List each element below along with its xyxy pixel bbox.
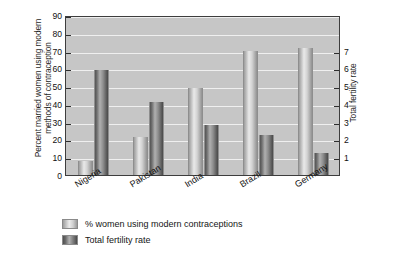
y-tick-mark-right bbox=[334, 124, 340, 125]
legend-label: Total fertility rate bbox=[85, 235, 151, 245]
y-tick-mark-left bbox=[66, 53, 71, 54]
y-tick-label-left: 90 bbox=[52, 12, 62, 20]
y-tick-label-left: 60 bbox=[52, 65, 62, 73]
y-tick-label-left: 80 bbox=[52, 30, 62, 38]
y-tick-label-left: 50 bbox=[52, 83, 62, 91]
legend-item: % women using modern contraceptions bbox=[62, 217, 243, 231]
chart-legend: % women using modern contraceptionsTotal… bbox=[62, 217, 243, 249]
y-tick-label-right: 6 bbox=[344, 65, 349, 73]
y-tick-mark-left bbox=[66, 141, 71, 142]
bar-brazil-contraception bbox=[243, 51, 258, 175]
bar-india-contraception bbox=[188, 88, 203, 175]
y-tick-label-left: 10 bbox=[52, 154, 62, 162]
y-tick-mark-left bbox=[66, 88, 71, 89]
y-tick-label-right: 7 bbox=[344, 48, 349, 56]
y-tick-label-right: 4 bbox=[344, 101, 349, 109]
y-tick-label-left: 70 bbox=[52, 48, 62, 56]
y-tick-label-left: 30 bbox=[52, 119, 62, 127]
y-tick-mark-right bbox=[334, 159, 340, 160]
y-tick-mark-right bbox=[334, 106, 340, 107]
y-axis-left-title: Percent married women using modern metho… bbox=[33, 3, 53, 173]
y-axis-right-title: Total fertility rate bbox=[348, 28, 358, 158]
bar-nigeria-fertility bbox=[94, 70, 109, 175]
y-tick-mark-left bbox=[66, 17, 71, 18]
bar-brazil-fertility bbox=[259, 135, 274, 175]
y-tick-label-left: 20 bbox=[52, 136, 62, 144]
y-tick-label-right: 1 bbox=[344, 154, 349, 162]
y-tick-mark-right bbox=[334, 141, 340, 142]
gridline bbox=[66, 17, 339, 18]
legend-swatch-light bbox=[62, 219, 78, 229]
legend-label: % women using modern contraceptions bbox=[85, 219, 243, 229]
legend-swatch-dark bbox=[62, 235, 78, 245]
y-tick-label-right: 2 bbox=[344, 136, 349, 144]
gridline bbox=[66, 35, 339, 36]
y-tick-mark-left bbox=[66, 35, 71, 36]
bar-chart: Percent married women using modern metho… bbox=[0, 0, 393, 258]
legend-item: Total fertility rate bbox=[62, 233, 243, 247]
bar-germany-contraception bbox=[298, 48, 313, 175]
bar-india-fertility bbox=[204, 125, 219, 175]
plot-area bbox=[65, 16, 340, 176]
y-tick-label-left: 40 bbox=[52, 101, 62, 109]
y-tick-label-left: 0 bbox=[57, 172, 62, 180]
y-tick-label-right: 3 bbox=[344, 119, 349, 127]
y-axis-left-title-line1: Percent married women using modern bbox=[33, 3, 43, 173]
y-tick-mark-right bbox=[334, 70, 340, 71]
y-tick-mark-right bbox=[334, 53, 340, 54]
y-tick-mark-left bbox=[66, 70, 71, 71]
y-tick-mark-right bbox=[334, 88, 340, 89]
y-tick-label-right: 5 bbox=[344, 83, 349, 91]
y-tick-mark-left bbox=[66, 106, 71, 107]
y-tick-mark-left bbox=[66, 124, 71, 125]
y-tick-mark-left bbox=[66, 159, 71, 160]
